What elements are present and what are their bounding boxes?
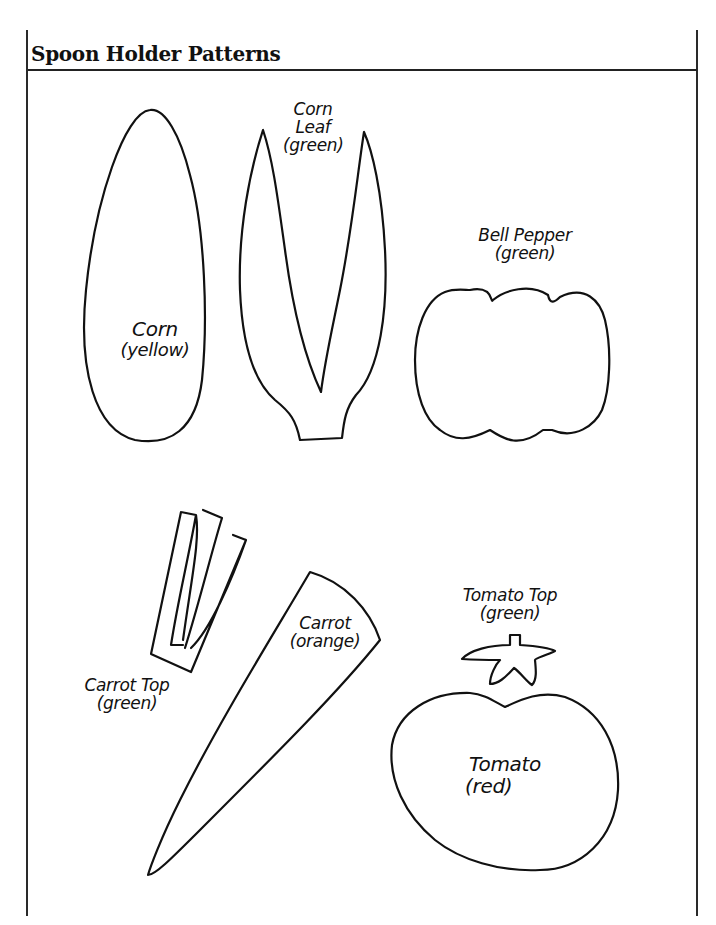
corn-leaf-shape xyxy=(240,130,386,440)
bell-pepper-shape xyxy=(415,289,609,441)
carrot-top-shape xyxy=(151,510,246,672)
corn-leaf-name-line1: Corn xyxy=(283,100,343,118)
label-bell-pepper: Bell Pepper (green) xyxy=(460,226,590,262)
carrot-color: (orange) xyxy=(280,632,370,650)
label-carrot: Carrot (orange) xyxy=(280,614,370,650)
corn-leaf-color: (green) xyxy=(283,136,343,154)
carrot-top-name: Carrot Top xyxy=(72,676,182,694)
label-tomato-top: Tomato Top (green) xyxy=(450,586,570,622)
label-corn: Corn (yellow) xyxy=(110,318,200,360)
corn-name: Corn xyxy=(110,318,200,340)
tomato-color: (red) xyxy=(455,775,555,797)
tomato-top-color: (green) xyxy=(450,604,570,622)
corn-color: (yellow) xyxy=(110,340,200,360)
label-tomato: Tomato (red) xyxy=(455,753,555,797)
label-carrot-top: Carrot Top (green) xyxy=(72,676,182,712)
tomato-top-name: Tomato Top xyxy=(450,586,570,604)
tomato-top-shape xyxy=(462,635,555,685)
carrot-top-color: (green) xyxy=(72,694,182,712)
bell-pepper-color: (green) xyxy=(460,244,590,262)
tomato-name: Tomato xyxy=(455,753,555,775)
bell-pepper-name: Bell Pepper xyxy=(460,226,590,244)
label-corn-leaf: Corn Leaf (green) xyxy=(283,100,343,154)
corn-leaf-name-line2: Leaf xyxy=(283,118,343,136)
carrot-name: Carrot xyxy=(280,614,370,632)
corn-shape xyxy=(84,110,205,441)
